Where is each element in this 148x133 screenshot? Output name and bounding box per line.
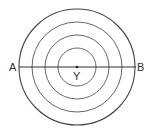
label-b: B: [137, 61, 144, 73]
label-a: A: [9, 61, 17, 73]
concentric-circles-diagram: A B Y: [0, 0, 148, 133]
label-y: Y: [73, 70, 81, 82]
center-point: [76, 66, 79, 69]
